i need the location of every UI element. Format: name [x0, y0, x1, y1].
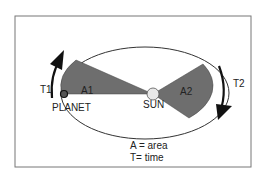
planet-icon [61, 91, 68, 98]
label-a2: A2 [180, 86, 193, 97]
label-a1: A1 [81, 85, 94, 96]
kepler-diagram: T1 T2 A1 A2 PLANET SUN A = area T= time [0, 0, 276, 188]
label-t2: T2 [233, 78, 245, 89]
legend-area: A = area [130, 140, 168, 151]
label-t1: T1 [40, 84, 52, 95]
legend-time: T= time [130, 152, 164, 163]
label-sun: SUN [143, 99, 164, 110]
label-planet: PLANET [52, 102, 91, 113]
